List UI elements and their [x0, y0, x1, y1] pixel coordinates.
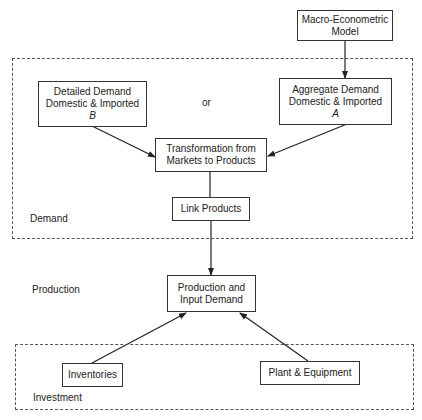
node-text: Macro-Econometric	[302, 14, 389, 26]
macro-econometric-model-node: Macro-Econometric Model	[297, 10, 393, 41]
node-text: Transformation from	[166, 143, 256, 155]
detailed-demand-node: Detailed Demand Domestic & Imported B	[38, 81, 147, 127]
inventories-node: Inventories	[62, 363, 123, 387]
node-text: Markets to Products	[167, 155, 256, 167]
plant-equipment-node: Plant & Equipment	[260, 361, 360, 385]
node-text: Inventories	[68, 369, 117, 381]
node-text: Model	[331, 26, 358, 38]
investment-group-label: Investment	[33, 392, 82, 403]
aggregate-demand-node: Aggregate Demand Domestic & Imported A	[279, 78, 392, 125]
production-input-demand-node: Production and Input Demand	[167, 275, 256, 312]
production-group-label: Production	[32, 284, 80, 295]
node-variable: B	[89, 110, 96, 122]
or-label: or	[202, 97, 211, 108]
node-variable: A	[332, 108, 339, 120]
node-text: Plant & Equipment	[269, 367, 352, 379]
node-text: Detailed Demand	[54, 86, 131, 98]
node-text: Link Products	[181, 203, 242, 215]
transformation-node: Transformation from Markets to Products	[155, 138, 267, 172]
node-text: Domestic & Imported	[289, 96, 382, 108]
link-products-node: Link Products	[172, 197, 250, 221]
demand-group-label: Demand	[30, 213, 68, 224]
node-text: Production and	[178, 282, 245, 294]
node-text: Input Demand	[180, 294, 243, 306]
node-text: Domestic & Imported	[46, 98, 139, 110]
node-text: Aggregate Demand	[292, 84, 379, 96]
